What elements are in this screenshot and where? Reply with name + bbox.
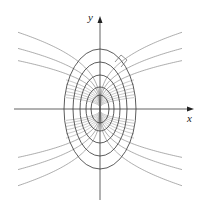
trajectory-curve [100,61,182,109]
orthogonal-trajectories-diagram: x y [0,0,205,209]
y-axis-arrow-icon [98,16,103,23]
trajectory-fan-line [100,98,134,109]
trajectory-curve [18,61,100,109]
trajectory-curve [100,48,182,109]
trajectory-curve [18,109,100,170]
trajectory-fan-line [100,109,134,120]
trajectory-curve [18,109,100,157]
x-axis-arrow-icon [187,107,194,112]
trajectory-fan-line [100,84,134,109]
trajectory-fan-line [66,98,100,109]
trajectory-fan-line [100,109,134,138]
trajectory-fan-line [66,84,100,109]
trajectory-fan-line [66,80,100,109]
trajectory-fan-line [66,109,100,120]
trajectory-fan-line [66,109,100,134]
trajectory-fan-line [66,109,100,138]
x-axis-label: x [186,112,192,124]
trajectory-fan-line [100,80,134,109]
trajectory-fan-line [100,109,134,134]
trajectory-curve [100,109,182,170]
y-axis-label: y [87,11,93,23]
trajectory-curve [18,48,100,109]
trajectory-curve [100,109,182,157]
